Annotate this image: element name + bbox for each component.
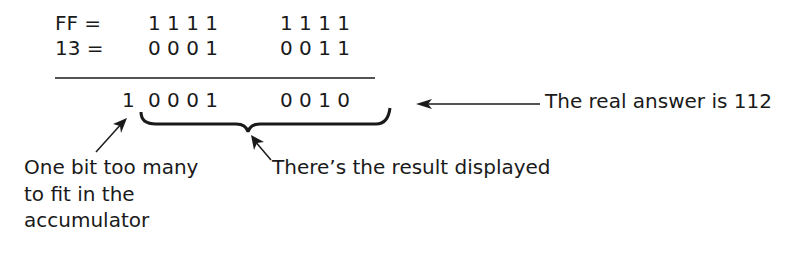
result-brace [141, 108, 390, 132]
arrow-to-carry-bit-icon [96, 118, 127, 152]
arrow-to-real-answer-icon [416, 99, 540, 109]
arrow-to-brace-icon [251, 135, 271, 160]
diagram-graphics [0, 0, 801, 254]
